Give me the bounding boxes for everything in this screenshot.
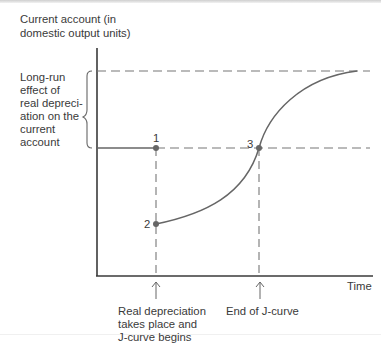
bracket-label-line: real depreci- <box>20 97 83 110</box>
point-1-marker <box>153 145 159 151</box>
arrow1-label-line: J-curve begins <box>118 331 191 344</box>
arrow1-label-line: takes place and <box>118 318 197 331</box>
bracket-label-line: ation on the <box>20 110 79 123</box>
arrow1-label-line: Real depreciation <box>118 305 206 318</box>
y-axis-label-line2: domestic output units) <box>20 27 131 40</box>
bracket-icon <box>83 71 92 148</box>
bracket-label-line: effect of <box>20 84 60 97</box>
point-3-marker <box>256 145 262 151</box>
point-2-marker <box>153 221 159 227</box>
y-axis-label-line1: Current account (in <box>20 13 116 26</box>
j-curve-diagram <box>0 0 381 352</box>
point-3-label: 3 <box>247 138 253 151</box>
arrow2-label: End of J-curve <box>226 305 299 318</box>
bracket-label-line: Long-run <box>20 71 65 84</box>
bracket-label-line: account <box>20 136 60 149</box>
point-2-label: 2 <box>144 218 150 231</box>
x-axis-label: Time <box>347 280 372 293</box>
point-1-label: 1 <box>153 132 159 145</box>
bracket-label-line: current <box>20 123 55 136</box>
